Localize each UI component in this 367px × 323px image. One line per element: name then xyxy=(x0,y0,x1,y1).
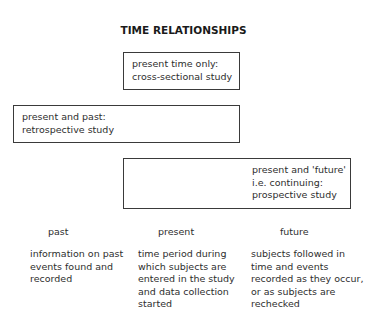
diagram-title: TIME RELATIONSHIPS xyxy=(0,24,367,36)
box-line: present and past: xyxy=(22,111,114,124)
box-line: retrospective study xyxy=(22,124,114,137)
box-line: present and 'future' xyxy=(252,164,346,177)
column-heading-present: present xyxy=(158,226,194,237)
retrospective-box: present and past: retrospective study xyxy=(13,105,240,143)
box-line: i.e. continuing: xyxy=(252,177,346,190)
column-description-present: time period during which subjects are en… xyxy=(138,248,235,311)
prospective-box: present and 'future' i.e. continuing: pr… xyxy=(123,158,351,209)
box-line: present time only: xyxy=(132,58,232,71)
box-line: cross-sectional study xyxy=(132,71,232,84)
column-heading-past: past xyxy=(48,226,69,237)
column-heading-future: future xyxy=(280,226,309,237)
column-description-past: information on past events found and rec… xyxy=(30,248,123,286)
box-line: prospective study xyxy=(252,189,346,202)
cross-sectional-box: present time only: cross-sectional study xyxy=(123,52,240,90)
column-description-future: subjects followed in time and events rec… xyxy=(251,248,363,311)
